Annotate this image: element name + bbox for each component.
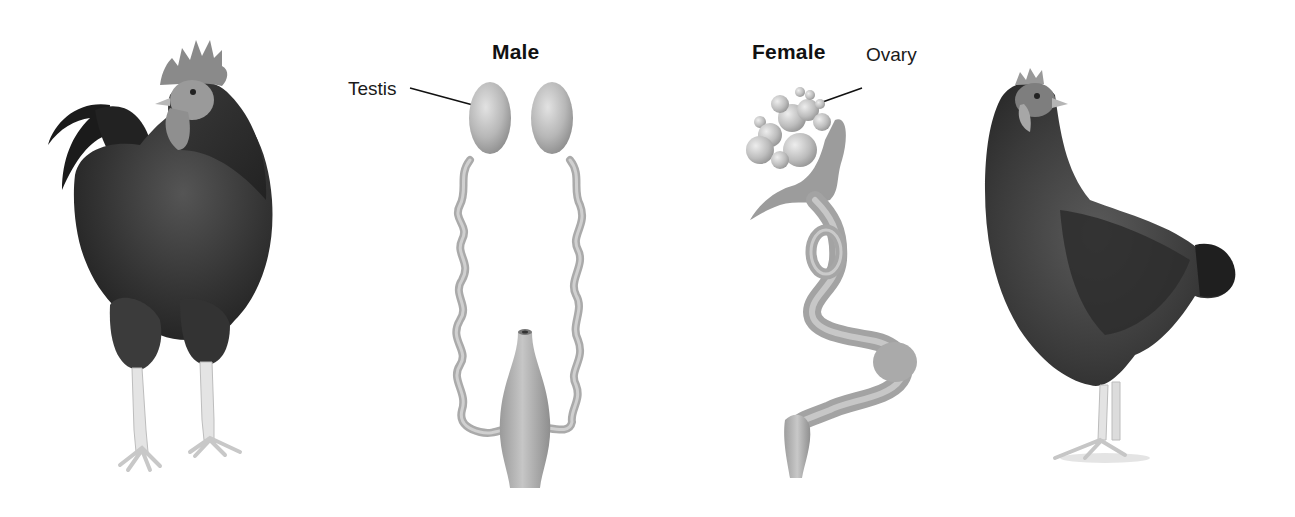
vagina [784, 415, 810, 478]
female-reproductive-diagram [0, 0, 1295, 517]
ovary [746, 87, 831, 169]
